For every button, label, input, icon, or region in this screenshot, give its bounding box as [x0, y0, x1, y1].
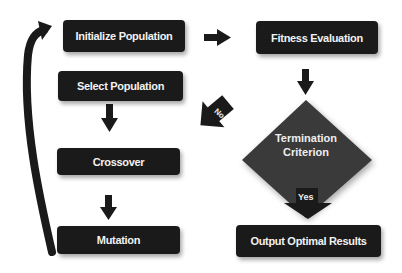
label-line-1: Termination [262, 131, 350, 145]
node-initialize-population: Initialize Population [63, 20, 185, 52]
arrow-right-icon [204, 29, 231, 46]
node-label: Initialize Population [76, 30, 173, 42]
node-select-population: Select Population [58, 71, 183, 101]
node-label: Output Optimal Results [250, 235, 366, 247]
node-output-optimal-results: Output Optimal Results [236, 225, 381, 257]
node-mutation: Mutation [57, 226, 180, 254]
arrow-down-icon [100, 195, 117, 220]
loop-back-arrowhead [38, 21, 52, 40]
yes-label: Yes [298, 192, 314, 202]
node-crossover: Crossover [57, 148, 180, 175]
node-label: Mutation [97, 234, 140, 246]
loop-back-arrow [27, 30, 52, 252]
node-label: Fitness Evaluation [271, 32, 363, 44]
node-label: Select Population [77, 80, 164, 92]
arrow-down-icon [101, 104, 118, 132]
node-fitness-evaluation: Fitness Evaluation [256, 21, 378, 54]
label-line-2: Criterion [262, 145, 350, 159]
termination-criterion-label: Termination Criterion [262, 131, 350, 159]
arrow-down-icon [297, 69, 314, 95]
node-label: Crossover [93, 156, 145, 168]
